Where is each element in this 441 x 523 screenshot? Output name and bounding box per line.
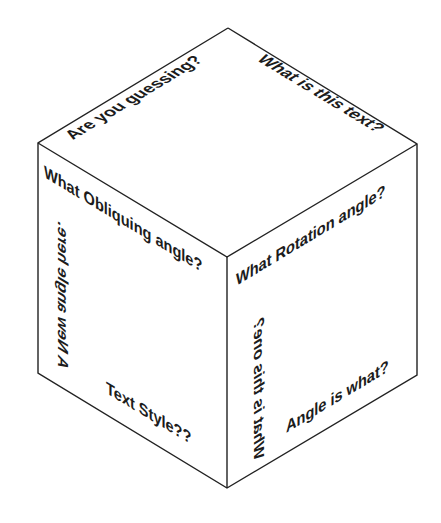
cube-svg: Are you guessing? What is this text? Wha… bbox=[0, 0, 441, 523]
right-face-label-what-is-this-one: What is this one? bbox=[251, 314, 267, 464]
left-face-label-a-new-angle-here: A New angle here. bbox=[55, 218, 71, 374]
cube-diagram: Are you guessing? What is this text? Wha… bbox=[0, 0, 441, 523]
